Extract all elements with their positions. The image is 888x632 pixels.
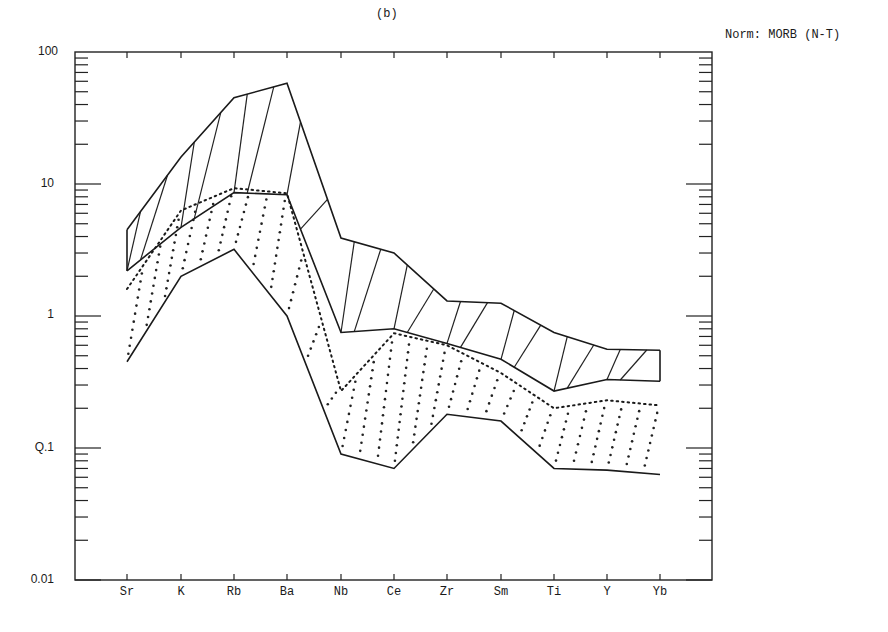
- y-tick-label-0-1: Q.1: [14, 440, 54, 454]
- x-tick-label-nb: Nb: [326, 585, 356, 599]
- x-tick-label-y: Y: [592, 585, 622, 599]
- y-tick-label-1: 1: [14, 307, 54, 321]
- x-tick-label-ce: Ce: [379, 585, 409, 599]
- x-tick-label-sr: Sr: [112, 585, 142, 599]
- y-tick-label-100: 100: [18, 44, 58, 58]
- y-tick-label-0-01: 0.01: [14, 572, 54, 586]
- panel-label: (b): [376, 7, 398, 21]
- plot-frame: [75, 52, 712, 580]
- envelope-a-hatch: [127, 87, 647, 391]
- x-tick-label-zr: Zr: [432, 585, 462, 599]
- envelope-lines: [127, 83, 660, 474]
- x-tick-label-sm: Sm: [486, 585, 516, 599]
- envelope-b-dots: [127, 195, 658, 467]
- axis-ticks: [75, 52, 712, 580]
- x-tick-label-ti: Ti: [539, 585, 569, 599]
- x-tick-label-yb: Yb: [645, 585, 675, 599]
- x-tick-label-k: K: [166, 585, 196, 599]
- y-tick-label-10: 10: [14, 176, 54, 190]
- x-tick-label-rb: Rb: [219, 585, 249, 599]
- x-tick-label-ba: Ba: [272, 585, 302, 599]
- spider-diagram: [0, 0, 888, 632]
- normalization-label: Norm: MORB (N-T): [725, 28, 840, 42]
